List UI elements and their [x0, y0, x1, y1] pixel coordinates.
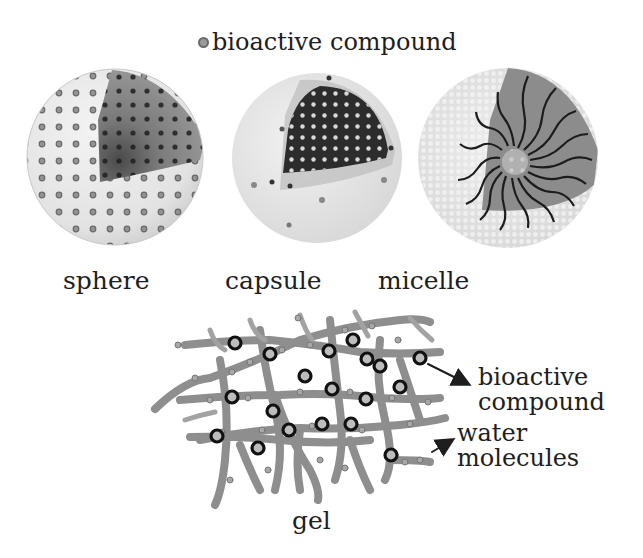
sphere-label: sphere	[63, 268, 149, 293]
capsule-label: capsule	[225, 268, 322, 293]
sphere-diagram	[25, 67, 205, 247]
bioactive-compound-dot-icon	[198, 37, 209, 48]
gel-label: gel	[292, 508, 331, 533]
micelle-diagram	[418, 68, 598, 248]
gel-annotation-water-molecules: water molecules	[457, 421, 579, 471]
legend-label: bioactive compound	[212, 30, 457, 54]
annotation-line: water	[457, 421, 579, 446]
legend: bioactive compound	[198, 30, 457, 54]
gel-diagram	[155, 312, 468, 505]
gel-annotation-bioactive-compound: bioactive compound	[478, 365, 605, 415]
micelle-label: micelle	[378, 268, 469, 293]
annotation-line: molecules	[457, 446, 579, 471]
annotation-line: compound	[478, 390, 605, 415]
annotation-line: bioactive	[478, 365, 605, 390]
capsule-diagram	[232, 73, 402, 243]
